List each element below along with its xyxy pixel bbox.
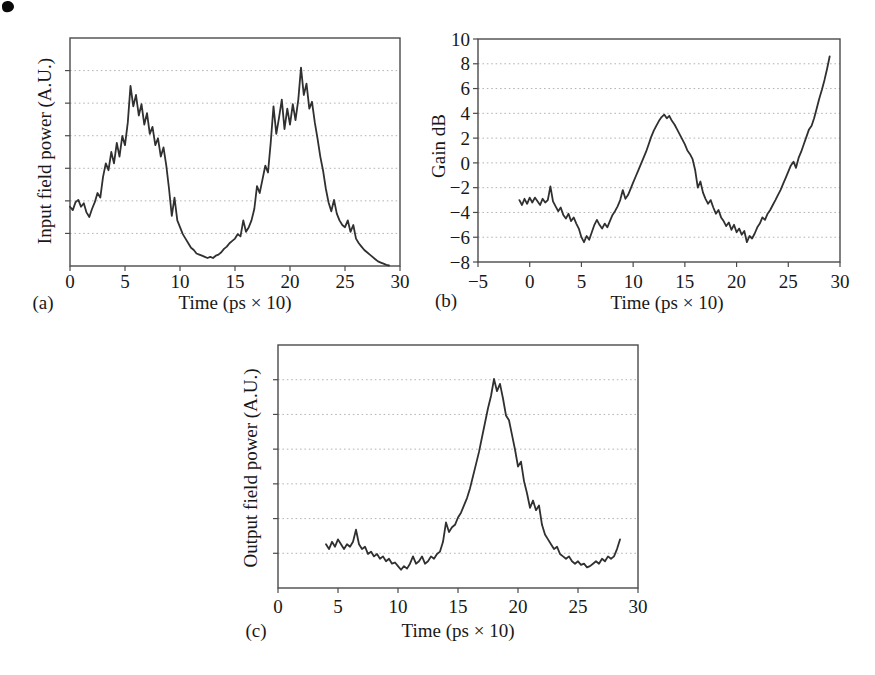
- svg-text:30: 30: [391, 271, 410, 292]
- svg-text:10: 10: [389, 596, 408, 615]
- figure-canvas: Input field power (A.U.) 051015202530 Ti…: [0, 0, 875, 675]
- svg-text:4: 4: [461, 103, 471, 124]
- svg-text:5: 5: [120, 271, 130, 292]
- y-axis-title-a: Input field power (A.U.): [35, 58, 54, 244]
- svg-text:25: 25: [779, 271, 798, 292]
- svg-text:25: 25: [336, 271, 355, 292]
- svg-text:25: 25: [569, 596, 588, 615]
- svg-text:−4: −4: [450, 202, 471, 223]
- svg-text:30: 30: [831, 271, 850, 292]
- svg-text:0: 0: [273, 596, 283, 615]
- svg-text:10: 10: [451, 29, 470, 50]
- y-axis-title-b: Gain dB: [429, 114, 448, 178]
- panel-a: Input field power (A.U.) 051015202530 Ti…: [0, 0, 875, 675]
- y-axis-title-c: Output field power (A.U.): [241, 369, 260, 568]
- chart-a-plot: 051015202530: [60, 28, 412, 294]
- x-axis-title-b: Time (ps × 10): [611, 293, 724, 312]
- svg-text:−2: −2: [450, 177, 470, 198]
- svg-text:10: 10: [624, 271, 643, 292]
- svg-text:20: 20: [727, 271, 746, 292]
- panel-b: Gain dB 1086420−2−4−6−8−5051015202530 Ti…: [0, 0, 875, 675]
- svg-text:20: 20: [281, 271, 300, 292]
- chart-c-plot: 051015202530: [268, 335, 660, 615]
- panel-c: Output field power (A.U.) 051015202530 T…: [0, 0, 875, 675]
- panel-letter-a: (a): [32, 293, 53, 312]
- scan-artifact-mark: [1, 0, 14, 13]
- svg-text:5: 5: [333, 596, 343, 615]
- svg-text:15: 15: [226, 271, 245, 292]
- svg-text:5: 5: [577, 271, 587, 292]
- svg-text:30: 30: [629, 596, 648, 615]
- chart-b-plot: 1086420−2−4−6−8−5051015202530: [440, 28, 865, 294]
- svg-text:2: 2: [461, 128, 471, 149]
- panel-letter-b: (b): [435, 291, 457, 310]
- panel-letter-c: (c): [245, 621, 266, 640]
- svg-text:−6: −6: [450, 227, 470, 248]
- svg-text:−5: −5: [468, 271, 488, 292]
- svg-text:15: 15: [449, 596, 468, 615]
- svg-text:6: 6: [461, 78, 471, 99]
- x-axis-title-a: Time (ps × 10): [179, 293, 292, 312]
- svg-text:0: 0: [65, 271, 75, 292]
- svg-text:8: 8: [461, 53, 471, 74]
- svg-text:0: 0: [525, 271, 535, 292]
- svg-text:−8: −8: [450, 252, 470, 273]
- x-axis-title-c: Time (ps × 10): [402, 621, 515, 640]
- svg-text:20: 20: [509, 596, 528, 615]
- svg-text:10: 10: [171, 271, 190, 292]
- svg-text:0: 0: [461, 153, 471, 174]
- svg-text:15: 15: [675, 271, 694, 292]
